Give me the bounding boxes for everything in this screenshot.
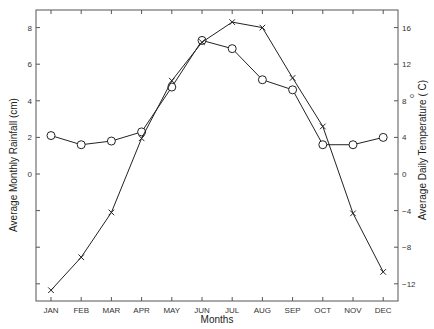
temperature-x-marker <box>78 254 84 260</box>
x-tick-label: OCT <box>314 306 331 315</box>
y-axis-left-title: Average Monthly Rainfall (cm) <box>8 98 19 232</box>
temperature-x-marker <box>380 269 386 275</box>
y-right-tick-label: 8 <box>402 97 407 106</box>
y-left-tick-label: 0 <box>28 170 33 179</box>
y-left-tick-label: 8 <box>28 24 33 33</box>
y-axis-right-title: Average Daily Temperature ( C) <box>417 80 428 220</box>
x-tick-label: FEB <box>73 306 89 315</box>
temperature-x-marker <box>350 211 356 217</box>
y-left-tick-label: 6 <box>28 60 33 69</box>
temperature-x-marker <box>48 287 54 293</box>
degree-symbol: o <box>408 94 415 98</box>
y-right-tick-label: −4 <box>402 207 412 216</box>
rainfall-circle-marker <box>47 132 55 140</box>
rainfall-circle-marker <box>379 133 387 141</box>
y-right-tick-label: 16 <box>402 24 411 33</box>
y-right-tick-label: 0 <box>402 170 407 179</box>
temperature-x-marker <box>320 124 326 130</box>
y-left-tick-label: 2 <box>28 133 33 142</box>
x-tick-label: NOV <box>344 306 362 315</box>
x-tick-label: JAN <box>43 306 58 315</box>
rainfall-circle-marker <box>258 76 266 84</box>
y-right-tick-label: 12 <box>402 60 411 69</box>
temperature-line <box>51 22 383 290</box>
rainfall-circle-marker <box>349 141 357 149</box>
temperature-x-marker <box>290 75 296 81</box>
series-lines <box>47 19 387 293</box>
x-tick-label: AUG <box>254 306 271 315</box>
dual-axis-line-chart: JANFEBMARAPRMAYJUNJULAUGSEPOCTNOVDEC8642… <box>0 0 434 329</box>
y-right-tick-label: 4 <box>402 133 407 142</box>
y-right-tick-label: −8 <box>402 243 412 252</box>
y-left-tick-label: 4 <box>28 97 33 106</box>
x-tick-label: MAR <box>103 306 121 315</box>
rainfall-circle-marker <box>228 45 236 53</box>
rainfall-circle-marker <box>289 86 297 94</box>
axis-ticks: JANFEBMARAPRMAYJUNJULAUGSEPOCTNOVDEC8642… <box>28 10 417 315</box>
rainfall-circle-marker <box>319 141 327 149</box>
rainfall-circle-marker <box>77 141 85 149</box>
x-tick-label: APR <box>133 306 150 315</box>
temperature-x-marker <box>109 210 115 216</box>
y-right-tick-label: −12 <box>402 280 416 289</box>
x-tick-label: DEC <box>375 306 392 315</box>
x-tick-label: MAY <box>163 306 180 315</box>
x-axis-title: Months <box>201 314 234 325</box>
rainfall-circle-marker <box>107 137 115 145</box>
x-tick-label: SEP <box>285 306 301 315</box>
plot-frame <box>36 10 398 301</box>
rainfall-line <box>51 40 383 144</box>
